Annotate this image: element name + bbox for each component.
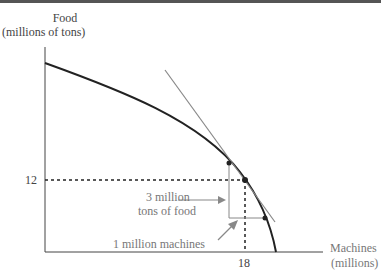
x-axis-label-2: (millions) bbox=[331, 256, 378, 270]
triangle bbox=[229, 163, 265, 218]
point-main bbox=[242, 177, 248, 183]
food-annotation-2: tons of food bbox=[138, 204, 196, 218]
ppf-chart bbox=[0, 0, 381, 277]
x-axis-label-1: Machines bbox=[330, 241, 377, 255]
point-lower bbox=[263, 216, 268, 221]
machines-annotation: 1 million machines bbox=[113, 237, 205, 251]
food-annotation-1: 3 million bbox=[146, 190, 190, 204]
x-tick-18: 18 bbox=[238, 256, 250, 270]
y-tick-12: 12 bbox=[25, 173, 37, 187]
ppf-curve bbox=[45, 63, 276, 252]
point-upper bbox=[227, 161, 232, 166]
